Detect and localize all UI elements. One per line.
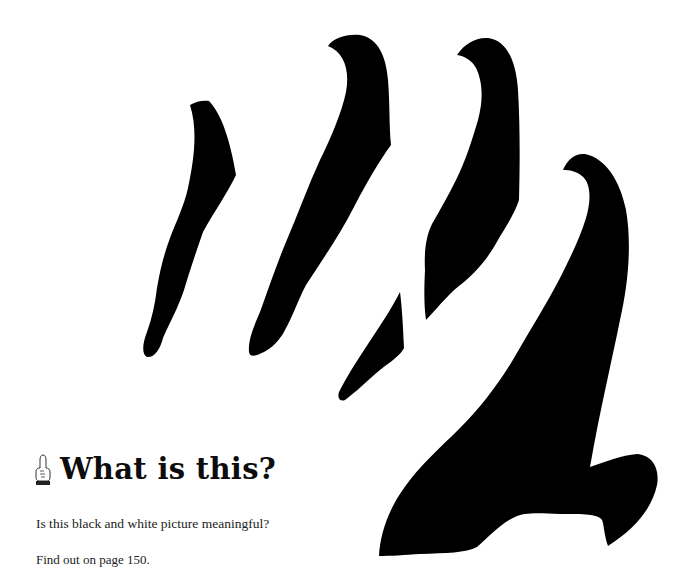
page-reference-text: Find out on page 150. [36, 552, 150, 568]
ambiguous-figure [0, 0, 689, 587]
figure-shape-4 [338, 292, 404, 401]
pointing-hand-icon [34, 454, 52, 486]
figure-shape-2 [249, 35, 391, 356]
question-text: Is this black and white picture meaningf… [36, 516, 269, 532]
heading: What is this? [34, 452, 276, 486]
figure-shape-3 [424, 38, 519, 320]
page-title: What is this? [60, 452, 276, 486]
figure-shape-5 [379, 154, 658, 556]
figure-shape-1 [143, 101, 236, 357]
